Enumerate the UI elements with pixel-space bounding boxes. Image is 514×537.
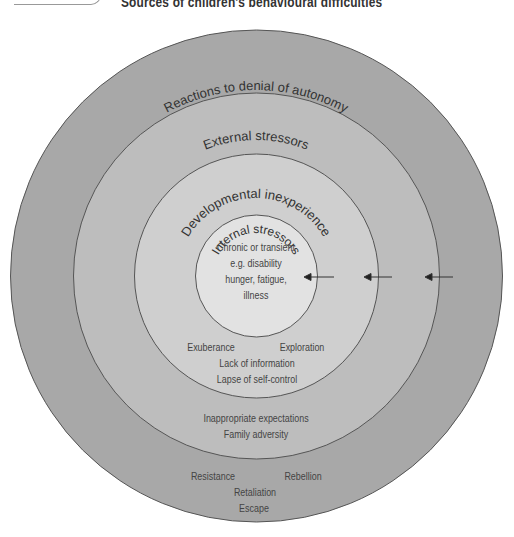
reactions-item: Escape <box>239 501 269 515</box>
internal-item: illness <box>244 288 269 302</box>
reactions-item: Retaliation <box>234 485 276 499</box>
reactions-item: Rebellion <box>284 469 321 483</box>
reactions-item: Resistance <box>191 469 235 483</box>
developmental-item: Lapse of self-control <box>217 372 297 386</box>
developmental-item: Lack of information <box>219 356 294 370</box>
external-item: Family adversity <box>224 427 288 441</box>
internal-item: Chronic or transient <box>217 240 295 254</box>
developmental-item: Exuberance <box>187 340 235 354</box>
external-item: Inappropriate expectations <box>203 411 308 425</box>
internal-item: e.g. disability <box>230 256 282 270</box>
internal-item: hunger, fatigue, <box>225 272 287 286</box>
developmental-item: Exploration <box>280 340 325 354</box>
